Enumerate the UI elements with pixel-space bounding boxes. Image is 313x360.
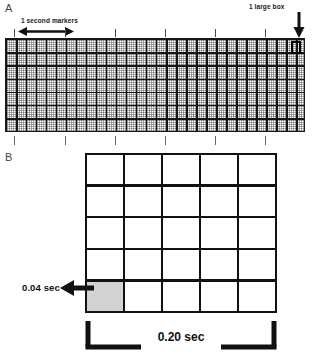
large-box-down-arrow-icon (292, 12, 306, 38)
small-box-cell (125, 282, 161, 311)
second-tick-below (65, 136, 66, 145)
small-box-cell (125, 155, 161, 184)
second-tick-above (265, 29, 266, 37)
second-tick-above (115, 29, 116, 37)
small-box-cell (201, 250, 237, 279)
ecg-paper-grid (5, 38, 305, 132)
small-box-cell (163, 187, 199, 216)
panel-a-letter: A (5, 2, 13, 14)
small-box-cell (87, 218, 123, 247)
small-box-left-arrow-icon (60, 278, 94, 298)
second-tick-above (215, 29, 216, 37)
highlighted-large-box (291, 41, 301, 54)
large-box-detail-grid (85, 153, 277, 313)
second-tick-below (215, 136, 216, 145)
second-tick-below (115, 136, 116, 145)
small-box-cell (239, 155, 275, 184)
second-tick-below (14, 136, 15, 145)
small-box-cell (163, 250, 199, 279)
small-box-cell (163, 218, 199, 247)
small-box-cell (125, 250, 161, 279)
large-box-duration-label: 0.20 sec (110, 330, 252, 344)
small-box-cell (87, 155, 123, 184)
small-box-cell (201, 187, 237, 216)
small-box-cell (201, 282, 237, 311)
panel-b: B 0.0 (0, 145, 313, 360)
one-second-markers-label: 1 second markers (21, 17, 78, 24)
small-box-cell (87, 187, 123, 216)
second-tick-above (14, 29, 15, 37)
small-box-cell (163, 155, 199, 184)
panel-b-letter: B (5, 151, 13, 163)
small-box-cell (163, 282, 199, 311)
one-large-box-label: 1 large box (249, 3, 284, 10)
small-box-cell (239, 218, 275, 247)
small-box-duration-label: 0.04 sec (22, 282, 60, 293)
small-box-cell (125, 187, 161, 216)
small-box-cell (201, 218, 237, 247)
panel-a: A 1 second markers 1 large box (0, 0, 313, 145)
ecg-large-box-lines (6, 39, 304, 131)
small-box-cell (239, 187, 275, 216)
small-box-cell (239, 282, 275, 311)
second-tick-below (265, 136, 266, 145)
second-tick-below (165, 136, 166, 145)
figure-ecg-paper-timing: A 1 second markers 1 large box (0, 0, 313, 360)
second-tick-above (65, 29, 66, 37)
small-box-cell (87, 250, 123, 279)
small-box-cell (201, 155, 237, 184)
small-box-cell (239, 250, 275, 279)
small-box-cell (125, 218, 161, 247)
second-tick-above (165, 29, 166, 37)
